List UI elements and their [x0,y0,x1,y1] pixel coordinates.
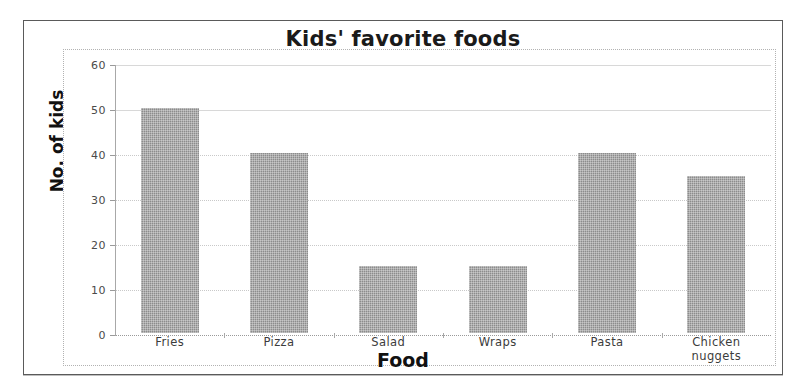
plot-inner: 60 50 40 30 20 10 0 Fries Pizza [64,50,775,365]
y-tick-label-0: 0 [64,329,106,342]
bar-salad[interactable] [359,266,417,334]
bar-group-pizza: Pizza [224,50,333,365]
chart-frame: Kids' favorite foods No. of kids 60 50 4… [23,20,783,375]
bar-wraps[interactable] [469,266,527,334]
bars-layer: Fries Pizza Salad Wraps [115,50,771,365]
bar-group-pasta: Pasta [552,50,661,365]
y-tick-label-30: 30 [64,194,106,207]
y-tick-label-60: 60 [64,59,106,72]
bar-fries[interactable] [141,108,199,333]
bar-group-salad: Salad [334,50,443,365]
x-axis-title: Food [24,349,782,371]
chart-title: Kids' favorite foods [24,27,782,51]
y-tick-label-50: 50 [64,104,106,117]
y-tick-label-40: 40 [64,149,106,162]
bar-group-chicken-nuggets: Chicken nuggets [662,50,771,365]
bar-pizza[interactable] [250,153,308,333]
bar-pasta[interactable] [578,153,636,333]
y-tick-label-10: 10 [64,284,106,297]
bar-group-wraps: Wraps [443,50,552,365]
plot-area: 60 50 40 30 20 10 0 Fries Pizza [63,49,776,366]
bar-chicken-nuggets[interactable] [687,176,745,334]
bar-group-fries: Fries [115,50,224,365]
y-tick-label-20: 20 [64,239,106,252]
